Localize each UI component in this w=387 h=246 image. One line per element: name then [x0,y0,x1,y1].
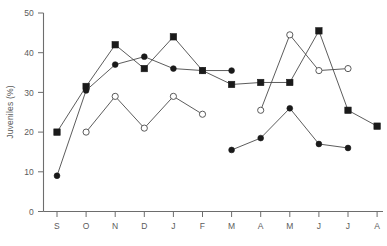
data-point-square-11 [374,123,380,129]
data-point-square-9 [316,28,322,34]
data-point-square-0 [54,129,60,135]
data-point-open-circle-2 [112,93,118,99]
axes-group [44,13,384,212]
data-point-circle-3 [141,54,147,60]
x-tick-label-8: M [286,221,293,231]
data-point-open-circle-5 [199,111,205,117]
x-tick-label-5: F [200,221,205,231]
data-point-open-circle-7 [258,107,264,113]
data-point-circle-7 [258,135,264,141]
x-tick-label-4: J [171,221,175,231]
y-tick-label-0: 0 [29,207,34,217]
series-line-filled-square [57,31,377,132]
series-group [54,28,381,179]
data-point-square-6 [228,81,234,87]
y-tick-labels-group: 50 40 30 20 10 0 [24,8,34,217]
x-tick-label-0: S [54,221,60,231]
data-point-open-circle-1 [83,129,89,135]
data-point-open-circle-8 [287,32,293,38]
y-tick-label-10: 10 [24,167,34,177]
x-tick-label-2: N [112,221,118,231]
y-tick-label-50: 50 [24,8,34,18]
x-tick-label-10: J [346,221,350,231]
x-tick-label-1: O [83,221,90,231]
x-tick-label-6: M [228,221,235,231]
data-point-circle-0 [54,173,60,179]
series-open-circle [83,32,351,135]
series-line-filled-circle-lower [232,108,348,150]
data-point-circle-4 [171,66,177,72]
x-tick-label-11: A [374,221,380,231]
chart-figure: 50 40 30 20 10 0 Juveniles (%) SONDJFMAM… [0,0,387,246]
data-point-circle-6 [229,147,235,153]
y-tick-label-20: 20 [24,127,34,137]
data-point-square-7 [258,79,264,85]
data-point-square-2 [112,42,118,48]
data-point-circle-2 [112,62,118,68]
y-tick-label-40: 40 [24,48,34,58]
juveniles-percent-line-chart: 50 40 30 20 10 0 Juveniles (%) SONDJFMAM… [0,0,387,246]
y-ticks-group [38,13,44,212]
x-tick-label-7: A [258,221,264,231]
data-point-circle-6 [229,68,235,74]
data-point-open-circle-9 [316,67,322,73]
data-point-circle-9 [316,141,322,147]
x-tick-labels-group: SONDJFMAMJJA [54,221,380,231]
data-point-open-circle-4 [170,93,176,99]
x-ticks-group [57,212,377,218]
series-filled-square [54,28,381,136]
data-point-circle-5 [200,68,206,74]
y-axis-title: Juveniles (%) [5,85,15,139]
data-point-square-10 [345,107,351,113]
data-point-open-circle-10 [345,65,351,71]
data-point-circle-1 [83,88,89,94]
data-point-open-circle-3 [141,125,147,131]
series-line-open-circle [261,35,348,110]
data-point-square-3 [141,65,147,71]
data-point-circle-10 [345,145,351,151]
series-filled-circle-lower [229,105,351,152]
x-tick-label-9: J [317,221,321,231]
data-point-square-4 [170,34,176,40]
x-tick-label-3: D [141,221,147,231]
data-point-circle-8 [287,105,293,111]
y-tick-label-30: 30 [24,88,34,98]
data-point-square-8 [287,79,293,85]
